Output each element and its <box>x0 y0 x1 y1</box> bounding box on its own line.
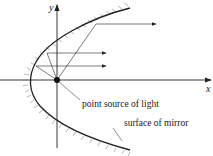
point-source-leader <box>58 81 80 100</box>
mirror-hatching <box>23 3 130 156</box>
mirror-leader <box>113 128 122 141</box>
mirror-surface-label: surface of mirror <box>124 118 189 128</box>
x-axis-label: x <box>205 83 211 94</box>
mirror-surface-curve <box>30 8 130 150</box>
parabolic-mirror-diagram: y x point source of light surface of mir… <box>0 0 213 156</box>
reflected-rays <box>36 24 156 66</box>
y-axis-label: y <box>48 2 54 13</box>
light-rays <box>36 24 96 80</box>
point-source-label: point source of light <box>82 99 159 109</box>
